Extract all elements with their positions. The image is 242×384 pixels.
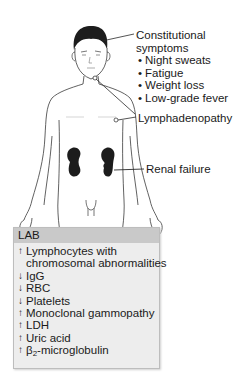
arrow-up-icon: ↑ — [18, 307, 23, 319]
arrow-up-icon: ↑ — [18, 319, 23, 331]
head — [75, 48, 107, 79]
symptoms-leader — [102, 34, 134, 41]
arrow-up-icon: ↑ — [18, 332, 23, 344]
right-kidney — [101, 148, 114, 177]
lab-item: ↑LDH — [18, 319, 159, 331]
symptoms-heading-2: symptoms — [136, 42, 228, 55]
lab-item: ↑Monoclonal gammopathy — [18, 307, 159, 319]
lab-item: ↑Uric acid — [18, 332, 159, 344]
symptoms-list: Night sweats Fatigue Weight loss Low-gra… — [136, 54, 228, 104]
renal-failure-label: Renal failure — [146, 163, 211, 176]
arrow-up-icon: ↑ — [18, 344, 23, 356]
lab-item: ↓IgG — [18, 270, 159, 282]
constitutional-symptoms-label: Constitutional symptoms Night sweats Fat… — [136, 29, 228, 104]
symptom-item: Weight loss — [138, 79, 228, 92]
lab-item: ↓RBC — [18, 282, 159, 294]
lab-item: ↑β2-microglobulin — [18, 344, 159, 356]
neck-node-leader — [96, 79, 135, 114]
symptom-item: Fatigue — [138, 67, 228, 80]
arrow-down-icon: ↓ — [18, 295, 23, 307]
symptom-item: Night sweats — [138, 54, 228, 67]
lymph-leader — [118, 117, 136, 120]
arrow-up-icon: ↑ — [18, 245, 23, 257]
axillary-node — [114, 118, 118, 122]
symptom-item: Low-grade fever — [138, 92, 228, 105]
arrow-down-icon: ↓ — [18, 282, 23, 294]
lab-panel: LAB ↑Lymphocytes with chromosomal abnorm… — [13, 227, 160, 369]
symptoms-heading-1: Constitutional — [136, 29, 228, 42]
lab-item: ↓Platelets — [18, 295, 159, 307]
lab-item: ↑Lymphocytes with — [18, 245, 159, 257]
hair — [74, 26, 108, 50]
left-kidney — [67, 148, 80, 177]
lab-item-continued: chromosomal abnormalities — [18, 257, 159, 269]
renal-leader — [114, 169, 144, 170]
arrow-down-icon: ↓ — [18, 270, 23, 282]
lab-list: ↑Lymphocytes with chromosomal abnormalit… — [14, 243, 159, 357]
lab-header: LAB — [14, 228, 159, 243]
lymphadenopathy-label: Lymphadenopathy — [138, 112, 232, 125]
